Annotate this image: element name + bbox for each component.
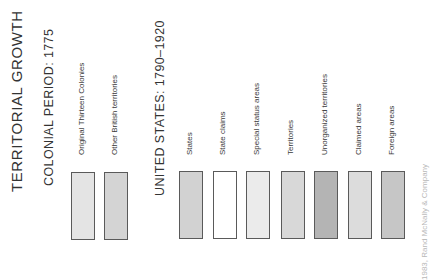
swatch-states <box>179 171 203 239</box>
legend-label-territories: Territories <box>287 120 295 155</box>
legend-label-claimed-areas: Claimed areas <box>355 103 363 155</box>
legend-label-other-british-territories: Other British territories <box>111 75 119 155</box>
legend-label-foreign-areas: Foreign areas <box>388 106 396 155</box>
swatch-claimed-areas <box>348 171 372 239</box>
legend-label-unorganized-territories: Unorganized territories <box>321 74 329 155</box>
swatch-territories <box>281 171 305 239</box>
colonial-period-heading: COLONIAL PERIOD: 1775 <box>43 29 56 186</box>
swatch-foreign-areas <box>381 171 405 239</box>
legend-label-state-claims: State claims <box>219 111 227 155</box>
legend-title: TERRITORIAL GROWTH <box>9 10 24 192</box>
swatch-original-thirteen-colonies <box>71 172 95 240</box>
united-states-heading: UNITED STATES: 1790–1920 <box>154 20 167 196</box>
swatch-special-status-areas <box>246 171 270 239</box>
swatch-unorganized-territories <box>314 171 338 239</box>
legend-label-states: States <box>186 132 194 155</box>
legend-label-original-thirteen-colonies: Original Thirteen Colonies <box>78 63 86 155</box>
swatch-other-british-territories <box>104 172 128 240</box>
swatch-state-claims <box>213 171 237 239</box>
copyright-credit: 1983, Rand McNally & Company <box>421 164 429 280</box>
legend-label-special-status-areas: Special status areas <box>253 83 261 155</box>
